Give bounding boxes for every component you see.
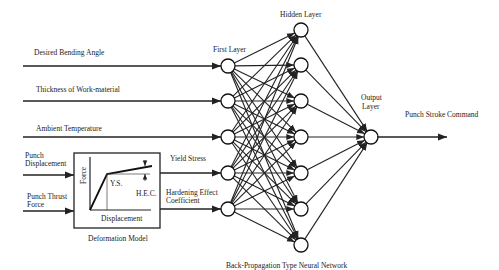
connection xyxy=(234,212,294,242)
connection xyxy=(307,140,365,170)
first-layer-node xyxy=(221,59,235,73)
input-label-thickness: Thickness of Work-material xyxy=(36,85,120,94)
network-title: Back-Propagation Type Neural Network xyxy=(226,261,347,270)
hidden-layer-node xyxy=(294,166,308,180)
hidden-layer-node xyxy=(294,202,308,216)
first-layer-node xyxy=(221,94,235,108)
hidden-layer-label: Hidden Layer xyxy=(280,10,322,19)
deformation-model-title: Deformation Model xyxy=(88,234,148,243)
connection xyxy=(306,70,366,132)
neural-network-diagram: Desired Bending Angle Thickness of Work-… xyxy=(0,0,499,270)
punch-displacement-label-2: Displacement xyxy=(25,159,67,168)
hidden-layer-node xyxy=(294,58,308,72)
hidden-layer-node xyxy=(294,130,308,144)
hec-output-label-2: Coefficient xyxy=(166,196,201,205)
first-layer-node xyxy=(221,166,235,180)
output-layer-node xyxy=(364,130,378,144)
connection xyxy=(305,36,367,131)
input-label-desired-bending-angle: Desired Bending Angle xyxy=(34,48,105,57)
connection xyxy=(306,142,366,204)
hidden-layer-node xyxy=(294,23,308,37)
punch-thrust-label-2: Force xyxy=(27,200,45,209)
punch-stroke-command-label: Punch Stroke Command xyxy=(405,110,479,119)
hidden-layer-node xyxy=(294,94,308,108)
connection xyxy=(307,104,365,134)
first-layer-label: First Layer xyxy=(213,45,247,54)
ys-label: Y.S. xyxy=(110,179,122,188)
output-layer-label-2: Layer xyxy=(362,102,380,111)
first-layer-node xyxy=(221,202,235,216)
hidden-layer-node xyxy=(294,238,308,252)
first-layer-node xyxy=(221,130,235,144)
displacement-axis-label: Displacement xyxy=(101,214,143,223)
input-label-ambient-temperature: Ambient Temperature xyxy=(36,124,102,133)
force-axis-label: Force xyxy=(79,166,88,184)
connection xyxy=(305,143,367,239)
yield-stress-label: Yield Stress xyxy=(170,154,206,163)
hec-label: H.E.C. xyxy=(136,189,157,198)
output-layer-label-1: Output xyxy=(361,93,383,102)
